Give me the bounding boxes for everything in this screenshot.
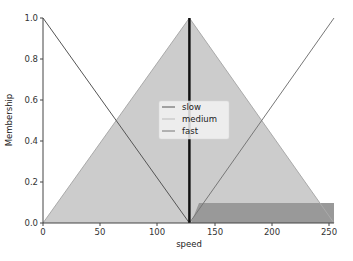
y-tick-label: 0.0 [24, 218, 38, 228]
y-axis-label: Membership [4, 94, 14, 147]
x-tick-label: 0 [40, 227, 45, 237]
x-tick-label: 150 [207, 227, 223, 237]
x-ticks: 0 50 100 150 200 250 [40, 223, 337, 237]
y-ticks: 0.0 0.2 0.4 0.6 0.8 1.0 [24, 13, 43, 228]
legend: slow medium fast [159, 101, 229, 139]
y-tick-label: 0.6 [24, 95, 38, 105]
fast-fill [191, 203, 334, 223]
x-tick-label: 200 [264, 227, 280, 237]
x-tick-label: 250 [321, 227, 337, 237]
legend-label-fast: fast [182, 126, 199, 136]
legend-label-medium: medium [182, 114, 217, 124]
y-tick-label: 0.2 [24, 177, 38, 187]
x-axis-label: speed [176, 239, 202, 249]
x-tick-label: 50 [95, 227, 106, 237]
x-tick-label: 100 [149, 227, 165, 237]
y-tick-label: 0.4 [24, 136, 38, 146]
y-tick-label: 0.8 [24, 54, 38, 64]
legend-label-slow: slow [182, 102, 201, 112]
y-tick-label: 1.0 [24, 13, 38, 23]
membership-chart: 0.0 0.2 0.4 0.6 0.8 1.0 0 50 100 150 200… [0, 0, 353, 261]
